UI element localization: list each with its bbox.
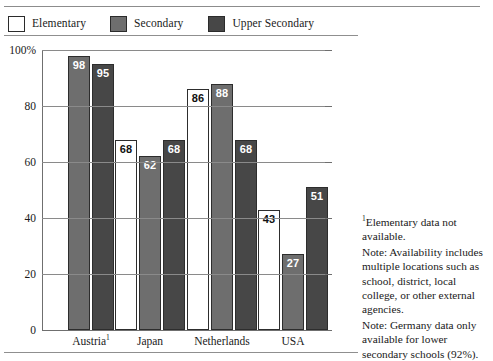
bar-austria-upper-secondary: 95 (92, 64, 114, 330)
y-tick-mark-40 (325, 218, 332, 219)
y-axis-label-20: 20 (0, 269, 36, 281)
bar-japan-upper-secondary: 68 (163, 140, 185, 330)
legend-item-elementary: Elementary (8, 13, 86, 34)
y-axis-label-0: 0 (0, 325, 36, 337)
legend-swatch-elementary-icon (8, 16, 25, 32)
legend-label-elementary: Elementary (32, 18, 86, 30)
top-divider-rule (4, 6, 480, 7)
y-tick-mark-20 (325, 274, 332, 275)
bar-netherlands-elementary: 86 (187, 89, 209, 330)
bar-value-label: 88 (212, 88, 232, 99)
y-tick-mark-60 (325, 162, 332, 163)
bar-austria-secondary: 98 (68, 56, 90, 330)
bar-usa-elementary: 43 (258, 210, 280, 330)
gridline-80 (42, 106, 325, 107)
bar-value-label: 68 (116, 144, 136, 155)
bar-usa-upper-secondary: 51 (306, 187, 328, 330)
x-axis-line (42, 330, 326, 331)
x-axis-label-text: USA (281, 335, 304, 347)
gridline-20 (42, 274, 325, 275)
y-axis-label-60: 60 (0, 157, 36, 169)
chart-legend: Elementary Secondary Upper Secondary (6, 13, 358, 34)
note-footnote-text: Elementary data not available. (362, 216, 457, 242)
bar-value-label: 86 (188, 93, 208, 104)
note-germany: Note: Germany data only available for lo… (362, 318, 490, 361)
bottom-divider-rule (4, 352, 358, 353)
bar-netherlands-upper-secondary: 68 (235, 140, 257, 330)
bar-value-label: 27 (283, 258, 303, 269)
legend-label-upper-secondary: Upper Secondary (232, 18, 314, 30)
legend-divider-rule (4, 35, 358, 36)
gridline-100 (42, 50, 325, 51)
bar-value-label: 68 (236, 144, 256, 155)
y-tick-mark-100 (325, 50, 332, 51)
x-axis-group-label-usa: USA (228, 336, 358, 348)
bar-value-label: 43 (259, 214, 279, 225)
y-tick-mark-80 (325, 106, 332, 107)
bar-netherlands-secondary: 88 (211, 84, 233, 330)
legend-label-secondary: Secondary (134, 18, 183, 30)
bar-japan-elementary: 68 (115, 140, 137, 330)
bar-value-label: 95 (93, 68, 113, 79)
note-availability: Note: Availability includes multiple loc… (362, 245, 490, 317)
legend-item-upper-secondary: Upper Secondary (208, 13, 314, 34)
y-axis-label-100: 100% (0, 45, 36, 57)
bar-value-label: 51 (307, 191, 327, 202)
bar-value-label: 68 (164, 144, 184, 155)
bar-usa-secondary: 27 (282, 254, 304, 330)
y-axis-label-80: 80 (0, 101, 36, 113)
gridline-60 (42, 162, 325, 163)
chart-plot-area: 9895686268868868432751 100%806040200 Aus… (0, 43, 360, 343)
y-axis-label-40: 40 (0, 213, 36, 225)
bar-value-label: 98 (69, 60, 89, 71)
note-footnote: 1Elementary data not available. (362, 215, 490, 244)
bar-japan-secondary: 62 (139, 156, 161, 330)
y-tick-mark-0 (325, 330, 332, 331)
bars-container: 9895686268868868432751 (42, 50, 325, 330)
legend-swatch-secondary-icon (110, 16, 127, 32)
legend-item-secondary: Secondary (110, 13, 183, 34)
legend-swatch-upper-secondary-icon (208, 16, 225, 32)
chart-notes: 1Elementary data not available. Note: Av… (362, 215, 490, 361)
gridline-40 (42, 218, 325, 219)
